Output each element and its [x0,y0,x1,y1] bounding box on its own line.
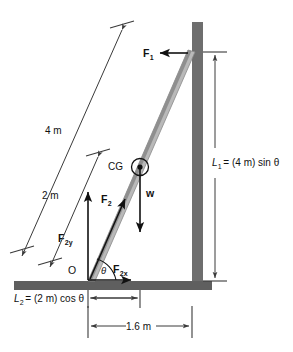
force-ground-label: F2 [101,193,112,207]
dimension-1p6m-label: 1.6 m [126,321,151,332]
angle-label: θ [101,265,107,276]
weight-label: w [145,187,155,199]
origin-label: O [68,264,76,276]
dimension-L1-label: L1= (4 m) sin θ [212,157,280,170]
dimension-4m-label: 4 m [45,125,62,136]
floor [14,281,212,290]
dimension-2m [38,149,110,267]
dimension-L2-label: L2= (2 m) cos θ [14,293,84,306]
force-ground-x-label: F2x [113,263,128,277]
cg-label: CG [108,161,123,172]
figure-container: CG w F1 F2 F2y F2x O θ [0,0,293,352]
dimension-L2 [88,290,140,308]
wall [192,22,203,281]
force-wall-label: F1 [143,47,154,61]
ladder-free-body-diagram: CG w F1 F2 F2y F2x O θ [0,0,293,352]
force-ground-vector [90,199,125,279]
dimension-2m-label: 2 m [42,190,59,201]
